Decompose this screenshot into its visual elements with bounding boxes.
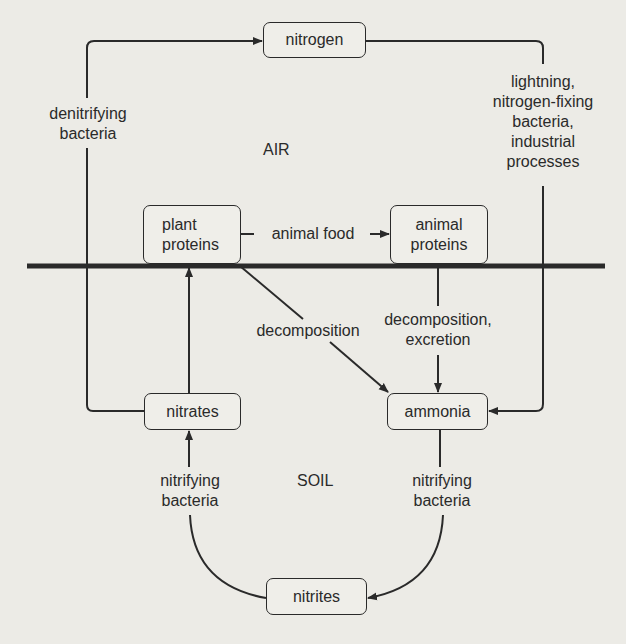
edge-nitrify-right-lower xyxy=(368,515,443,598)
node-plant-proteins: plant proteins xyxy=(143,205,241,264)
edge-decomposition-upper xyxy=(240,266,303,319)
label-animal-food: animal food xyxy=(256,224,370,244)
zone-air-label: AIR xyxy=(263,141,290,159)
label-denitrifying-bacteria: denitrifying bacteria xyxy=(30,104,146,144)
nitrogen-cycle-diagram: AIR SOIL nitrogen plant proteins animal … xyxy=(0,0,626,644)
node-nitrites: nitrites xyxy=(266,578,367,615)
node-nitrates: nitrates xyxy=(144,393,241,430)
edge-denitrifying-lower xyxy=(87,148,144,411)
node-nitrogen: nitrogen xyxy=(263,22,366,58)
node-animal-proteins: animal proteins xyxy=(390,205,488,264)
edge-nitrify-left-lower xyxy=(190,515,266,598)
label-nitrifying-bacteria-left: nitrifying bacteria xyxy=(140,471,240,511)
label-nitrifying-bacteria-right: nitrifying bacteria xyxy=(392,471,492,511)
label-decomposition: decomposition xyxy=(245,321,371,341)
label-decomposition-excretion: decomposition, excretion xyxy=(370,310,506,350)
zone-soil-label: SOIL xyxy=(297,472,333,490)
edge-denitrifying-upper xyxy=(87,41,262,98)
label-nitrogen-fixation: lightning, nitrogen-fixing bacteria, ind… xyxy=(480,72,606,172)
node-ammonia: ammonia xyxy=(387,393,488,430)
edge-fixation-upper xyxy=(366,41,543,64)
edge-fixation-lower xyxy=(489,186,543,411)
